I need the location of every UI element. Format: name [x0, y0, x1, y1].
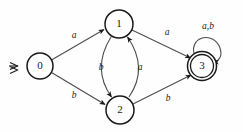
- state-3-label: 3: [199, 59, 205, 71]
- state-node-3[interactable]: 3: [188, 52, 217, 81]
- state-2-label: 2: [117, 103, 123, 115]
- state-0-label: 0: [37, 59, 43, 71]
- transition-label-1-to-2: b: [99, 62, 104, 72]
- start-arrow-marker: [9, 63, 18, 74]
- automaton-diagram: 0 1 2 3 a b b a a b a,b: [0, 0, 243, 132]
- transition-label-0-to-2: b: [72, 90, 77, 100]
- automaton-canvas: 0 1 2 3 a b b a a b a,b: [0, 0, 243, 132]
- transition-2-to-3: [133, 75, 191, 104]
- transition-0-to-1: [52, 30, 105, 61]
- transition-1-to-3: [132, 30, 191, 58]
- transition-label-3-self-loop: a,b: [202, 21, 214, 31]
- transition-label-2-to-3: b: [166, 93, 171, 103]
- transition-0-to-2: [52, 73, 106, 105]
- transition-label-2-to-1: a: [138, 62, 143, 72]
- transition-label-0-to-1: a: [72, 30, 77, 40]
- state-node-1[interactable]: 1: [105, 10, 133, 38]
- state-1-label: 1: [116, 17, 122, 29]
- transition-label-1-to-3: a: [165, 27, 170, 37]
- state-node-2[interactable]: 2: [106, 96, 134, 124]
- state-node-0[interactable]: 0: [27, 53, 53, 79]
